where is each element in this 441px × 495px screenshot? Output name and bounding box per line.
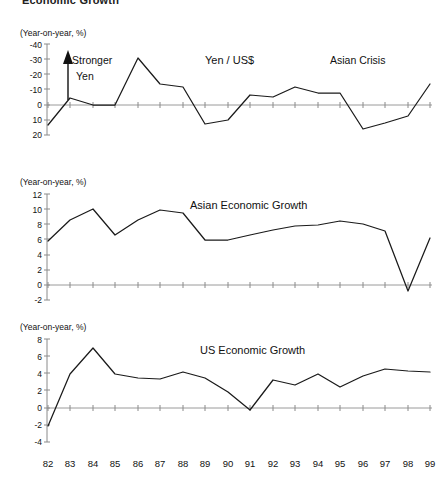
ytick-label: 4: [37, 369, 42, 379]
xtick-label: 90: [223, 458, 234, 469]
xtick-label: 96: [358, 458, 369, 469]
series-line-asian-growth: [48, 209, 430, 291]
xtick-label: 85: [110, 458, 121, 469]
chart-svg-us-growth: 8 6 4 2 0 -2 -4: [0, 322, 441, 495]
series-line-yen-usd: [48, 58, 430, 129]
panel-asian-economic-growth: (Year-on-year, %) Asian Economic Growth …: [0, 177, 441, 327]
ytick-label: 6: [37, 352, 42, 362]
xtick-label: 92: [268, 458, 279, 469]
xtick-label: 91: [245, 458, 256, 469]
chart-svg-yen-usd: -40 -30 -20 -10 0 10 20: [0, 28, 441, 178]
ytick-label: 8: [37, 220, 42, 230]
ytick-label: 8: [37, 335, 42, 345]
xtick-label: 84: [88, 458, 99, 469]
xtick-label: 93: [290, 458, 301, 469]
xtick-label: 95: [335, 458, 346, 469]
ytick-label: 12: [33, 190, 43, 200]
ytick-label: 6: [37, 235, 42, 245]
ytick-label: 10: [33, 205, 43, 215]
x-axis-labels: 82 83 84 85 86 87 88 89 90 91 92 93 94 9…: [43, 458, 436, 469]
ytick-label: 20: [33, 130, 43, 140]
ytick-label: 0: [37, 403, 42, 413]
xtick-label: 94: [313, 458, 324, 469]
xtick-label: 89: [200, 458, 211, 469]
chart-svg-asian-growth: 12 10 8 6 4 2 0 -2: [0, 177, 441, 327]
ytick-label: 0: [37, 280, 42, 290]
series-line-us-growth: [48, 348, 430, 426]
ytick-label: 2: [37, 386, 42, 396]
ytick-label: -2: [34, 295, 42, 305]
ytick-label: -2: [34, 420, 42, 430]
ytick-label: -4: [34, 437, 42, 447]
ytick-label: -10: [30, 85, 43, 95]
ytick-label: -30: [30, 55, 43, 65]
figure-title: Economic Growth: [22, 0, 119, 6]
ytick-label: -40: [30, 40, 43, 50]
xtick-label: 88: [178, 458, 189, 469]
ytick-label: 2: [37, 265, 42, 275]
xtick-label: 86: [133, 458, 144, 469]
up-arrow-icon: [63, 50, 73, 100]
xtick-label: 83: [65, 458, 76, 469]
xtick-label: 97: [380, 458, 391, 469]
ytick-label: 10: [33, 115, 43, 125]
ytick-label: 0: [37, 100, 42, 110]
xtick-label: 99: [425, 458, 436, 469]
ytick-label: 4: [37, 250, 42, 260]
xtick-label: 87: [155, 458, 166, 469]
ytick-label: -20: [30, 70, 43, 80]
panel-us-economic-growth: (Year-on-year, %) US Economic Growth 8 6…: [0, 322, 441, 495]
panel-yen-usd: (Year-on-year, %) Yen / US$ Asian Crisis…: [0, 28, 441, 178]
figure-root: Economic Growth (Year-on-year, %) Yen / …: [0, 0, 441, 495]
xtick-label: 98: [403, 458, 414, 469]
xtick-label: 82: [43, 458, 54, 469]
